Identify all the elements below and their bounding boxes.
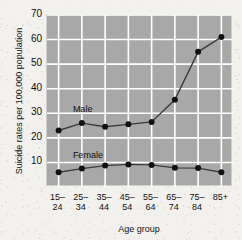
x-tick-label: 65– 74 xyxy=(166,192,181,212)
series-label-female: Female xyxy=(73,150,103,160)
x-tick-label: 85+ xyxy=(213,192,228,202)
series-label-male: Male xyxy=(73,104,93,114)
x-tick-label: 45– 54 xyxy=(120,192,135,212)
x-tick-label: 15– 24 xyxy=(50,192,65,212)
x-axis-tick-labels: 15– 2425– 3435– 4445– 5455– 6465– 7475– … xyxy=(0,0,242,240)
suicide-rates-line-chart: Suicide rates per 100,000 population 102… xyxy=(0,0,242,240)
x-axis-title: Age group xyxy=(46,224,232,234)
x-tick-label: 75– 84 xyxy=(190,192,205,212)
x-tick-label: 55– 64 xyxy=(143,192,158,212)
x-tick-label: 35– 44 xyxy=(97,192,112,212)
x-tick-label: 25– 34 xyxy=(73,192,88,212)
